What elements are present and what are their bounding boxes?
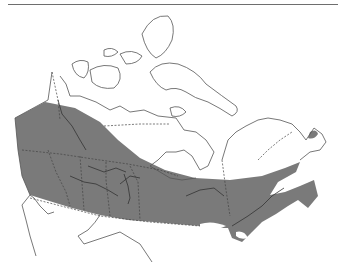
- ellesmere-island: [142, 16, 173, 58]
- border-nunavut: [104, 124, 170, 126]
- border-quebec-labrador: [258, 132, 292, 160]
- range-band: [15, 102, 318, 242]
- victoria-island: [90, 65, 120, 88]
- banks-island: [72, 60, 89, 78]
- devon-island: [120, 51, 142, 64]
- map-figure: [0, 0, 344, 274]
- canada-map: [0, 0, 344, 274]
- small-arctic-island: [104, 48, 118, 56]
- baffin-island: [150, 63, 237, 116]
- southampton-island: [170, 107, 186, 117]
